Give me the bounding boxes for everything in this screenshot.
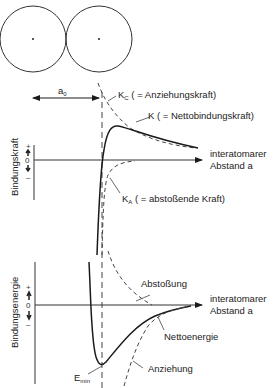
a0-label: a0	[58, 85, 67, 97]
energy-x-axis-label-line2: Abstand a	[210, 305, 253, 316]
equilibrium-distance: a0	[33, 85, 99, 98]
atom-pair	[0, 6, 132, 72]
repulsion-energy-label: Abstoßung	[141, 278, 187, 289]
net-force-label: K ( = Nettobindungskraft)	[148, 110, 254, 121]
energy-plot: + 0 – Bindungsenergie interatomarer Abst…	[9, 251, 267, 386]
force-tick-zero: 0	[25, 156, 30, 165]
net-energy-label: Nettoenergie	[164, 331, 218, 342]
energy-down-arrow-icon	[27, 311, 31, 319]
energy-tick-zero: 0	[26, 301, 31, 310]
force-y-axis-label: Bindungskraft	[9, 138, 20, 196]
attraction-energy-label: Anziehung	[148, 363, 193, 374]
energy-y-axis-label: Bindungsenergie	[9, 277, 20, 348]
energy-x-axis-label-line1: interatomarer	[210, 293, 267, 304]
force-x-axis-label-line1: interatomarer	[210, 148, 267, 159]
repulsive-force-label: KA ( = abstoßende Kraft)	[122, 193, 225, 205]
energy-up-arrow-icon	[27, 292, 31, 300]
force-plot: + 0 – Bindungskraft interatomarer Abstan…	[9, 83, 267, 255]
energy-tick-minus: –	[26, 320, 31, 329]
energy-tick-plus: +	[26, 283, 31, 292]
attraction-energy-curve	[124, 306, 191, 386]
interatomic-bonding-diagram: a0 + 0 – Bindungskraft interatomarer Abs…	[0, 0, 274, 388]
right-atom-nucleus	[98, 38, 100, 40]
net-force-curve	[97, 126, 198, 255]
repulsive-force-curve	[102, 161, 135, 255]
energy-minimum-label: Emin	[74, 372, 90, 384]
force-down-arrow-icon	[26, 165, 30, 171]
attractive-force-label: KC ( = Anziehungskraft)	[118, 89, 216, 101]
left-atom-nucleus	[32, 38, 34, 40]
force-tick-minus: –	[26, 173, 31, 182]
force-x-axis-label-line2: Abstand a	[210, 160, 253, 171]
